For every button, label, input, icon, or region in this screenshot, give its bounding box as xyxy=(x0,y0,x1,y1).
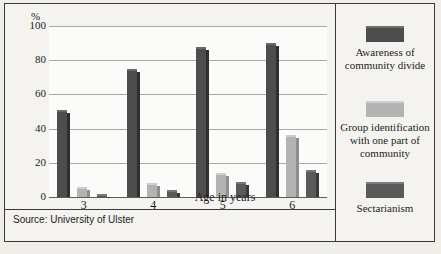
legend-item: Awareness ofcommunity divide xyxy=(336,26,434,72)
swatch-top xyxy=(366,182,404,184)
bar-group xyxy=(188,26,258,197)
y-axis-tick-label: 20 xyxy=(6,156,46,168)
figure-caption xyxy=(4,245,435,253)
swatch-face xyxy=(366,184,404,198)
legend-item: Sectarianism xyxy=(336,182,434,215)
bar-front-face xyxy=(57,112,67,197)
bar-groups xyxy=(49,26,327,197)
bar-front-face xyxy=(97,196,107,197)
legend-item: Group identificationwith one part ofcomm… xyxy=(336,101,434,160)
bar-top-face xyxy=(57,110,67,112)
x-axis-tick-label: 3 xyxy=(49,198,119,213)
bar-top-face xyxy=(127,69,137,71)
bar-top-face xyxy=(77,187,87,189)
bar xyxy=(266,43,279,197)
figure-frame: % 020406080100 3456 Age in years Source:… xyxy=(4,3,435,242)
y-axis-tick-label: 0 xyxy=(6,190,46,202)
bar-top-face xyxy=(147,183,157,185)
bar xyxy=(57,110,70,197)
bar xyxy=(97,194,110,197)
bar-side-face xyxy=(206,50,209,197)
swatch-face xyxy=(366,103,404,117)
bar xyxy=(196,47,209,197)
bar-top-face xyxy=(216,173,226,175)
legend-item-label: Group identificationwith one part ofcomm… xyxy=(336,121,434,160)
bar-top-face xyxy=(266,43,276,45)
y-axis-tick-label: 80 xyxy=(6,53,46,65)
bar-side-face xyxy=(276,46,279,197)
bar-group xyxy=(49,26,119,197)
bar-top-face xyxy=(97,194,107,196)
swatch-top xyxy=(366,101,404,103)
chart-legend: Awareness ofcommunity divideGroup identi… xyxy=(336,4,434,241)
bar xyxy=(77,187,90,197)
bar-top-face xyxy=(286,135,296,137)
bar xyxy=(127,69,140,197)
swatch-top xyxy=(366,26,404,28)
y-axis-tick-label: 100 xyxy=(6,19,46,31)
source-note: Source: University of Ulster xyxy=(13,214,134,225)
plot-area: % 020406080100 3456 Age in years xyxy=(5,4,335,209)
bar-side-face xyxy=(67,113,70,197)
legend-item-label: Sectarianism xyxy=(336,202,434,215)
bar-side-face xyxy=(296,138,299,197)
bar-front-face xyxy=(266,45,276,197)
bar-group xyxy=(258,26,328,197)
bar-top-face xyxy=(236,182,246,184)
bar-front-face xyxy=(196,49,206,197)
bar-top-face xyxy=(196,47,206,49)
mid-swatch xyxy=(366,182,404,198)
bar-top-face xyxy=(306,170,316,172)
bar-front-face xyxy=(77,189,87,197)
bar-front-face xyxy=(127,71,137,197)
bar xyxy=(286,135,299,197)
bar-group xyxy=(119,26,189,197)
x-axis-title: Age in years xyxy=(125,190,325,205)
legend-item-label: Awareness ofcommunity divide xyxy=(336,46,434,72)
y-axis-tick-label: 40 xyxy=(6,122,46,134)
bar-front-face xyxy=(286,137,296,197)
light-swatch xyxy=(366,101,404,117)
swatch-face xyxy=(366,28,404,42)
y-axis-ticks: 020406080100 xyxy=(5,26,46,197)
y-axis-tick-label: 60 xyxy=(6,87,46,99)
dark-swatch xyxy=(366,26,404,42)
figure-root: % 020406080100 3456 Age in years Source:… xyxy=(0,0,441,254)
bar-side-face xyxy=(137,72,140,197)
bar-side-face xyxy=(87,190,90,197)
